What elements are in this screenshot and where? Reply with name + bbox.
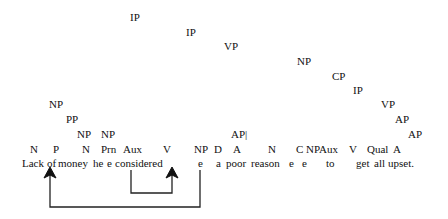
movement-arrows	[0, 0, 448, 219]
movement-arrow-subject	[44, 167, 200, 207]
movement-arrow-aux	[131, 167, 178, 193]
